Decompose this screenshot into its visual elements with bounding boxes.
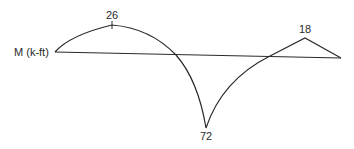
value-label-72: 72 — [200, 131, 212, 142]
value-label-18: 18 — [299, 24, 311, 35]
positive-moment-curve-left — [55, 25, 176, 55]
positive-moment-triangle-right — [270, 38, 341, 58]
baseline — [55, 52, 341, 58]
value-label-26: 26 — [106, 10, 118, 21]
axis-label: M (k-ft) — [14, 47, 49, 58]
negative-moment-curve — [176, 55, 270, 128]
